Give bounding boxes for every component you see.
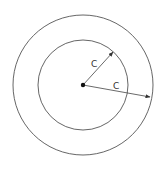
inner-radius-label: C	[91, 59, 97, 69]
inner-radius-arrow	[83, 52, 113, 85]
outer-radius-label: C	[113, 81, 119, 91]
diagram-canvas: C C	[0, 0, 158, 173]
concentric-circles-diagram: C C	[0, 0, 158, 173]
center-point	[81, 83, 85, 87]
